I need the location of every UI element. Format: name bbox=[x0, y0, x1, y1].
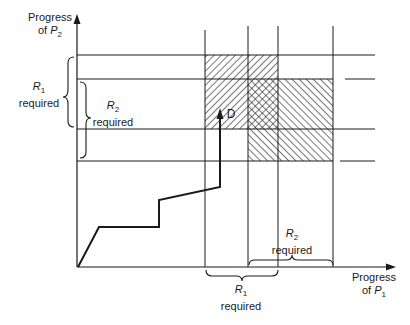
r1-required-label-bottom: R1 required bbox=[216, 283, 266, 313]
trajectory-path bbox=[78, 108, 224, 267]
y-axis-label-line1: Progress bbox=[22, 11, 78, 24]
x-axis-arrow-icon bbox=[386, 264, 396, 271]
x-axis-label-line1: Progress bbox=[344, 271, 404, 284]
r1-required-label-left: R1 required bbox=[14, 80, 64, 110]
x-axis-label: Progress of P1 bbox=[344, 271, 404, 301]
y-axis-label-line2: of P2 bbox=[22, 24, 78, 41]
x-axis-label-line2: of P1 bbox=[344, 284, 404, 301]
y-axis bbox=[74, 14, 81, 267]
brace-r1-bottom bbox=[206, 270, 278, 281]
x-axis bbox=[77, 264, 396, 271]
point-d-label: D bbox=[225, 108, 237, 121]
r2-required-label-left: R2 required bbox=[88, 99, 138, 129]
y-axis-label: Progress of P2 bbox=[22, 11, 78, 41]
brace-r1-left bbox=[63, 57, 74, 127]
r2-required-label-bottom: R2 required bbox=[267, 227, 317, 257]
r2-forbidden-region bbox=[248, 79, 333, 161]
